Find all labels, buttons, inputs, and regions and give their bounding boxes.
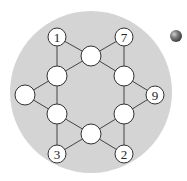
node-circle[interactable] [81, 46, 101, 66]
node-label: 9 [152, 88, 159, 103]
node-9[interactable]: 9 [146, 86, 164, 104]
empty-node-left[interactable] [15, 85, 35, 105]
empty-node-ur[interactable] [114, 66, 134, 86]
node-label: 7 [121, 30, 128, 45]
node-label: 3 [54, 147, 61, 162]
node-circle[interactable] [47, 66, 67, 86]
empty-node-lr[interactable] [114, 104, 134, 124]
globe-marker-icon [170, 30, 182, 42]
node-circle[interactable] [47, 104, 67, 124]
node-3[interactable]: 3 [48, 145, 66, 163]
node-circle[interactable] [114, 66, 134, 86]
node-1[interactable]: 1 [48, 28, 66, 46]
numbered-node-puzzle-diagram: 17932 [0, 0, 187, 181]
node-circle[interactable] [81, 124, 101, 144]
sphere-icon [170, 30, 182, 42]
empty-node-ul[interactable] [47, 66, 67, 86]
node-label: 1 [54, 30, 61, 45]
empty-node-bot[interactable] [81, 124, 101, 144]
node-circle[interactable] [15, 85, 35, 105]
empty-node-top[interactable] [81, 46, 101, 66]
node-7[interactable]: 7 [115, 28, 133, 46]
node-2[interactable]: 2 [115, 145, 133, 163]
empty-node-ll[interactable] [47, 104, 67, 124]
node-label: 2 [121, 147, 128, 162]
node-circle[interactable] [114, 104, 134, 124]
